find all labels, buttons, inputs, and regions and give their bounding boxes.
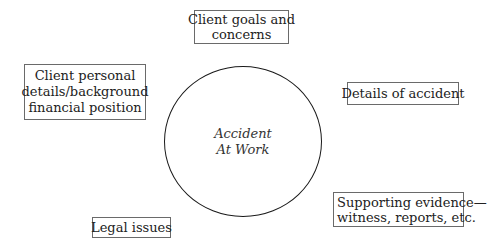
node-text: witness, reports, etc. [337,210,476,225]
central-topic-line: Accident [164,126,322,142]
node-details-accident: Details of accident [347,82,459,105]
node-text: Legal issues [91,220,172,235]
node-text: financial position [28,100,141,116]
node-client-personal: Client personal details/background finan… [24,64,146,120]
node-legal-issues: Legal issues [92,217,171,238]
central-topic-label: Accident At Work [164,126,322,158]
central-topic-line: At Work [164,142,322,158]
node-text: Client personal [35,68,136,84]
node-text: details/background [21,84,148,100]
node-text: Client goals and [188,12,295,27]
node-client-goals: Client goals and concerns [194,10,289,44]
node-supporting-evidence: Supporting evidence— witness, reports, e… [333,192,464,227]
node-text: concerns [212,27,272,42]
node-text: Details of accident [341,86,464,101]
node-text: Supporting evidence— [337,195,487,210]
